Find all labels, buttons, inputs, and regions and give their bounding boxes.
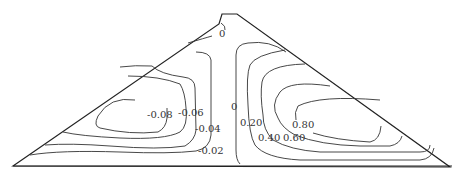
contour-diagram: 0 0 -0.08 -0.06 -0.04 -0.02 0.20 0.40 0.… [0,0,466,180]
contour-neg-004 [45,66,196,148]
contour-center-zero [236,42,286,164]
label-neg-008: -0.08 [147,109,173,120]
label-center-zero: 0 [231,101,237,112]
label-crest-zero: 0 [219,28,225,39]
label-neg-004: -0.04 [195,123,221,134]
label-pos-060: 0.60 [283,132,305,143]
contour-neg-006 [63,76,186,138]
dam-section-svg: 0 0 -0.08 -0.06 -0.04 -0.02 0.20 0.40 0.… [0,0,466,180]
contour-pos-020 [247,50,434,160]
contour-neg-002 [30,52,211,155]
label-neg-002: -0.02 [198,145,224,156]
label-neg-006: -0.06 [178,107,204,118]
label-pos-080: 0.80 [292,119,314,130]
label-pos-040: 0.40 [258,132,280,143]
label-pos-020: 0.20 [240,117,262,128]
